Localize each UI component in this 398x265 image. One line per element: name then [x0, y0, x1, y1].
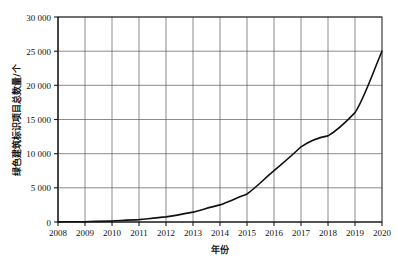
x-axis-title: 年份 [211, 244, 230, 255]
x-tick-label: 2015 [238, 228, 257, 238]
x-tick-label: 2008 [49, 228, 68, 238]
y-tick-label: 15 000 [26, 115, 51, 125]
x-tick-label: 2019 [346, 228, 365, 238]
x-tick-label: 2010 [103, 228, 122, 238]
y-axis [54, 17, 58, 222]
y-tick-label: 0 [47, 218, 52, 228]
y-tick-labels: 30 000 25 000 20 000 15 000 10 000 5 000… [26, 13, 51, 228]
y-tick-label: 25 000 [26, 47, 51, 57]
x-tick-label: 2013 [184, 228, 203, 238]
x-tick-labels: 2008 2009 2010 2011 2012 2013 2014 2015 … [49, 228, 392, 238]
y-tick-label: 30 000 [26, 13, 51, 23]
y-tick-label: 10 000 [26, 149, 51, 159]
x-tick-label: 2012 [157, 228, 175, 238]
y-tick-label: 20 000 [26, 81, 51, 91]
x-tick-label: 2016 [265, 228, 284, 238]
x-tick-label: 2018 [319, 228, 338, 238]
y-axis-title: 绿色建筑标识项目总数量/个 [11, 63, 22, 175]
chart-figure: 30 000 25 000 20 000 15 000 10 000 5 000… [0, 0, 398, 265]
line-chart: 30 000 25 000 20 000 15 000 10 000 5 000… [0, 0, 398, 265]
y-tick-label: 5 000 [31, 183, 52, 193]
x-tick-label: 2020 [373, 228, 392, 238]
x-tick-label: 2017 [292, 228, 311, 238]
x-tick-label: 2014 [211, 228, 230, 238]
x-tick-label: 2011 [130, 228, 148, 238]
x-axis [58, 222, 382, 226]
x-tick-label: 2009 [76, 228, 95, 238]
